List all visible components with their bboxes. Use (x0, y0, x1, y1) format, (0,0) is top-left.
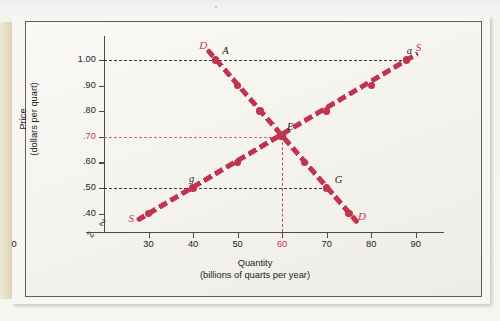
y-axis-title: Price (dollars per quart) (18, 59, 40, 179)
guide-line-horizontal (104, 188, 327, 189)
curve-label-demand-bottom: D (358, 210, 366, 222)
data-point-D (345, 210, 352, 217)
y-axis-title-sub: (dollars per quart) (29, 59, 40, 179)
curve-label-supply-top: S (416, 41, 422, 53)
y-axis-break-icon: ∿ (96, 218, 109, 227)
x-axis-title: Quantity (billions of quarts per year) (150, 258, 360, 281)
x-axis-tick-label: 70 (307, 239, 347, 249)
data-point-S (323, 107, 330, 114)
x-axis-title-sub: (billions of quarts per year) (150, 270, 360, 282)
y-axis-line (104, 36, 105, 232)
y-axis-tick-label: .70 (56, 131, 96, 141)
y-axis-tick-label: .40 (56, 208, 96, 218)
data-point-S (145, 210, 152, 217)
data-point-S (368, 82, 375, 89)
data-point-S (189, 184, 196, 191)
point-label-g: g (189, 173, 194, 184)
y-axis-tick (99, 214, 105, 215)
x-axis-break-icon: ∿ (86, 228, 95, 241)
y-axis-tick (99, 86, 105, 87)
supply-demand-chart: Price (dollars per quart) Quantity (bill… (0, 0, 500, 321)
x-axis-tick (416, 232, 417, 238)
curve-label-demand-top: D (199, 39, 207, 51)
y-axis-tick (99, 111, 105, 112)
y-axis-tick-label: .80 (56, 105, 96, 115)
guide-line-vertical (282, 137, 283, 232)
x-axis-tick (193, 232, 194, 238)
x-axis-line (86, 232, 444, 233)
x-axis-tick (282, 232, 283, 238)
x-axis-tick-label: 90 (396, 239, 436, 249)
x-axis-tick-label: 80 (351, 239, 391, 249)
x-axis-tick (238, 232, 239, 238)
y-axis-tick-label: .60 (56, 156, 96, 166)
x-axis-tick-label: 60 (262, 239, 302, 249)
point-label-E: E (287, 121, 293, 132)
curve-label-supply-bottom: S (129, 212, 135, 224)
x-axis-tick-label: 40 (173, 239, 213, 249)
point-label-A: A (222, 45, 228, 56)
data-point-D (301, 159, 308, 166)
data-point-D (212, 56, 219, 63)
y-axis-title-main: Price (18, 59, 29, 179)
data-point-D (256, 107, 263, 114)
data-point-S (403, 56, 410, 63)
x-axis-tick (149, 232, 150, 238)
origin-label: 0 (0, 239, 34, 249)
y-axis-tick-label: .90 (56, 80, 96, 90)
x-axis-tick (327, 232, 328, 238)
x-axis-tick (371, 232, 372, 238)
x-axis-title-main: Quantity (150, 258, 360, 270)
data-point-D (323, 184, 330, 191)
x-axis-tick-label: 50 (218, 239, 258, 249)
y-axis-tick (99, 162, 105, 163)
point-label-G: G (335, 174, 343, 185)
x-axis-tick-label: 30 (129, 239, 169, 249)
guide-line-horizontal (104, 137, 282, 138)
point-label-a: a (407, 45, 412, 56)
data-point-S (234, 159, 241, 166)
y-axis-tick-label: 1.00 (56, 54, 96, 64)
guide-line-horizontal (104, 60, 407, 61)
y-axis-tick-label: .50 (56, 182, 96, 192)
